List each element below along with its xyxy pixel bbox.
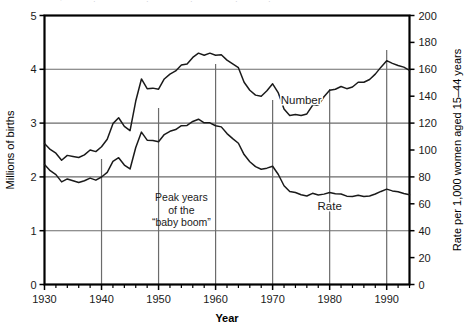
number-series-label: Number: [281, 94, 322, 106]
baby-boom-note-line-1: of the: [168, 204, 194, 216]
x-tick-label-1950: 1950: [146, 293, 170, 305]
y-tick-label-4: 4: [30, 63, 36, 75]
y2-tick-label-200: 200: [419, 10, 437, 22]
y2-tick-label-180: 180: [419, 36, 437, 48]
baby-boom-note-line-0: Peak years: [155, 191, 208, 203]
y2-tick-label-100: 100: [419, 144, 437, 156]
y2-tick-label-0: 0: [419, 279, 425, 291]
y2-tick-label-20: 20: [419, 252, 431, 264]
y2-tick-label-40: 40: [419, 225, 431, 237]
x-tick-label-1940: 1940: [89, 293, 113, 305]
header-glyph-4: ·: [235, 0, 238, 6]
header-glyph-2: ·: [146, 0, 149, 6]
baby-boom-note-line-2: “baby boom”: [152, 216, 211, 228]
x-tick-label-1990: 1990: [374, 293, 398, 305]
x-tick-label-1960: 1960: [203, 293, 227, 305]
x-tick-label-1970: 1970: [260, 293, 284, 305]
y2-tick-label-160: 160: [419, 63, 437, 75]
header-glyph-3: ·: [190, 0, 193, 6]
header-glyph-5: ·: [268, 0, 271, 6]
x-axis-title: Year: [215, 312, 239, 324]
y-tick-label-0: 0: [30, 279, 36, 291]
y2-tick-label-120: 120: [419, 117, 437, 129]
births-and-fertility-rate-chart: ’····· 1930194019501960197019801990 0123…: [0, 0, 470, 328]
x-tick-label-1980: 1980: [317, 293, 341, 305]
y-tick-label-2: 2: [30, 171, 36, 183]
chart-background: [0, 0, 470, 328]
y-axis-title-left: Millions of births: [4, 110, 16, 189]
chart-figure: ’····· 1930194019501960197019801990 0123…: [0, 0, 470, 328]
y2-tick-label-140: 140: [419, 90, 437, 102]
y-axis-title-right: Rate per 1,000 women aged 15–44 years: [451, 48, 463, 251]
y-tick-label-3: 3: [30, 117, 36, 129]
y-tick-label-5: 5: [30, 10, 36, 22]
header-glyph-0: ’: [60, 0, 62, 6]
header-glyph-1: ·: [93, 0, 96, 6]
y2-tick-label-80: 80: [419, 171, 431, 183]
x-tick-label-1930: 1930: [32, 293, 56, 305]
rate-series-label: Rate: [318, 200, 342, 212]
y-tick-label-1: 1: [30, 225, 36, 237]
y2-tick-label-60: 60: [419, 198, 431, 210]
